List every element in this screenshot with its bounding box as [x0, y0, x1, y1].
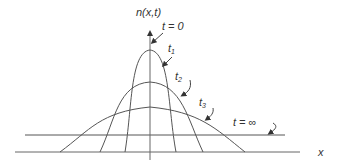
label-t2: t2 [175, 70, 182, 83]
label-t-infinity: t = ∞ [233, 116, 257, 128]
label-t1: t1 [168, 42, 175, 55]
y-axis-label: n(x,t) [136, 6, 161, 18]
arrow-t1 [164, 57, 172, 65]
x-axis-label: x [317, 146, 324, 158]
curve-t3 [60, 107, 245, 152]
arrow-t2 [183, 80, 191, 95]
label-t0: t = 0 [162, 20, 185, 32]
arrow-t3 [207, 108, 213, 119]
label-t3: t3 [199, 96, 206, 109]
curve-t2 [100, 82, 203, 152]
arrow-t0 [153, 33, 163, 42]
arrow-t-infinity [270, 123, 276, 133]
diffusion-diagram: n(x,t) x t = 0 t1 t2 t3 t = ∞ [0, 0, 340, 164]
